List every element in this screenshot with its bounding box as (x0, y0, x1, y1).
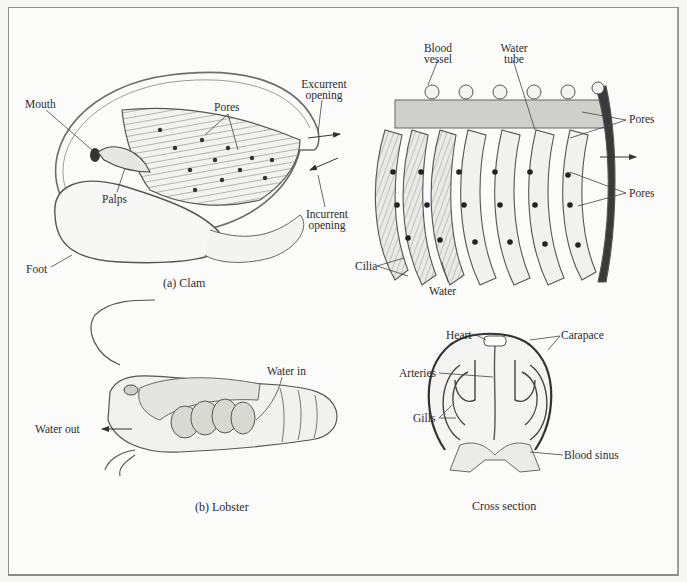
label-mouth: Mouth (25, 99, 56, 110)
gill-detail-illustration (375, 60, 636, 285)
caption-lobster: (b) Lobster (195, 500, 249, 515)
label-blood-vessel-line2: vessel (418, 54, 458, 65)
label-cilia: Cilia (355, 261, 377, 272)
label-water-in: Water in (267, 366, 306, 377)
clam-illustration (46, 72, 340, 267)
caption-cross-section: Cross section (472, 499, 536, 514)
lobster-illustration (91, 300, 337, 476)
cross-section-illustration (429, 334, 563, 472)
label-blood-vessel: Blood vessel (418, 43, 458, 65)
label-heart: Heart (446, 330, 472, 341)
label-arteries: Arteries (399, 368, 436, 379)
label-incurrent-opening: Incurrent opening (302, 209, 352, 231)
label-water-out: Water out (35, 424, 80, 435)
label-pores-bottom: Pores (629, 188, 655, 199)
label-pores-top: Pores (629, 114, 655, 125)
label-carapace: Carapace (561, 330, 604, 341)
label-excurrent-line2: opening (298, 90, 350, 101)
label-blood-sinus: Blood sinus (564, 450, 619, 461)
label-gills: Gills (413, 413, 435, 424)
label-foot: Foot (26, 264, 47, 275)
label-excurrent-opening: Excurrent opening (298, 79, 350, 101)
label-palps: Palps (102, 194, 127, 205)
label-water-tube-line2: tube (494, 54, 534, 65)
label-water: Water (429, 286, 456, 297)
caption-clam: (a) Clam (163, 276, 205, 291)
label-incurrent-line2: opening (302, 220, 352, 231)
label-water-tube: Water tube (494, 43, 534, 65)
label-pores-clam: Pores (214, 102, 240, 113)
